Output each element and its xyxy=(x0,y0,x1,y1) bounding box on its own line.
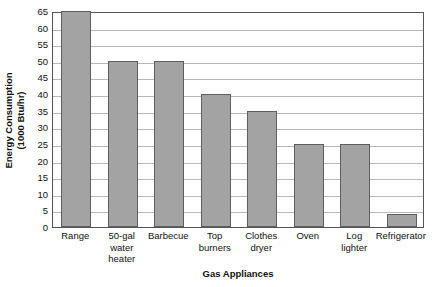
x-axis-tick-label-line: heater xyxy=(93,253,152,265)
x-axis-tick-label: Refrigerator xyxy=(372,230,431,242)
bar xyxy=(201,94,231,227)
bar xyxy=(154,61,184,227)
bar xyxy=(61,11,91,227)
bar-chart: Energy Consumption (1000 Btu/hr) 0510152… xyxy=(0,0,438,287)
y-axis-tick-label: 25 xyxy=(26,140,48,150)
y-axis-tick-label: 40 xyxy=(26,90,48,100)
y-axis-tick-label: 60 xyxy=(26,24,48,34)
bar xyxy=(340,144,370,227)
x-axis-title: Gas Appliances xyxy=(52,268,424,279)
y-axis-tick-label: 35 xyxy=(26,107,48,117)
x-axis-tick-label-line: water xyxy=(93,242,152,254)
plot-area xyxy=(52,12,424,228)
y-axis-tick-label: 50 xyxy=(26,57,48,67)
y-axis-tick-label: 10 xyxy=(26,190,48,200)
x-axis-tick-label-line: dryer xyxy=(232,242,291,254)
bar-series xyxy=(53,13,423,227)
y-axis-tick-label: 20 xyxy=(26,157,48,167)
bar xyxy=(387,214,417,227)
y-axis-tick-label: 45 xyxy=(26,73,48,83)
y-axis-title: Energy Consumption (1000 Btu/hr) xyxy=(0,12,28,228)
bar xyxy=(108,61,138,227)
y-axis-tick-label: 0 xyxy=(26,223,48,233)
chart-title xyxy=(0,0,438,3)
bar xyxy=(247,111,277,227)
y-axis-title-line-2: (1000 Btu/hr) xyxy=(14,91,25,149)
x-axis-tick-label-line: lighter xyxy=(325,242,384,254)
y-axis-title-line-1: Energy Consumption xyxy=(3,72,14,168)
y-axis-tick-label: 55 xyxy=(26,40,48,50)
y-axis-tick-label: 5 xyxy=(26,206,48,216)
y-axis-tick-label: 65 xyxy=(26,7,48,17)
bar xyxy=(294,144,324,227)
y-axis-tick-label: 15 xyxy=(26,173,48,183)
x-axis-tick-label-line: Refrigerator xyxy=(372,230,431,242)
x-axis-tick-labels: Range50-galwaterheaterBarbecueTopburners… xyxy=(52,230,424,270)
y-axis-tick-label: 30 xyxy=(26,123,48,133)
y-axis-tick-labels: 05101520253035404550556065 xyxy=(26,12,48,228)
